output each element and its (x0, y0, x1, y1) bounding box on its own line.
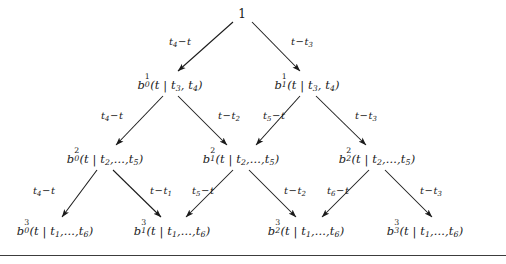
term-b-sub: 2 (301, 190, 305, 198)
term-a-sub: 4 (173, 41, 177, 49)
edge-label-root-left: t4−t (169, 37, 191, 49)
node-args-open: (t | t (150, 78, 176, 92)
node-subscript: 0 (74, 155, 79, 163)
node-args-close: ) (459, 224, 464, 238)
minus-operator: − (272, 110, 281, 121)
term-a-sub: 5 (267, 115, 271, 123)
node-args-open: (t | t (79, 152, 105, 166)
term-b: t (51, 185, 55, 196)
edge-b01-to-b02 (116, 96, 163, 145)
tree-node-b03: b30(t | t1,...,t6) (17, 223, 94, 239)
edge-label-b11-left: t5−t (263, 111, 285, 123)
node-args-mid: , t (318, 78, 330, 92)
node-args-mid: ,...,t (246, 152, 270, 166)
edge-label-b22-right: t−t3 (420, 186, 442, 198)
node-base: b (203, 152, 210, 166)
edge-b02-to-b03 (62, 170, 97, 217)
node-args-open: (t | t (29, 224, 55, 238)
edge-label-b01-right: t−t2 (218, 111, 240, 123)
edge-label-b22-left: t6−t (327, 186, 349, 198)
term-b-sub: 2 (235, 115, 239, 123)
node-subscript: 0 (145, 81, 150, 89)
node-indices: 22 (346, 151, 351, 163)
term-b: t (119, 110, 123, 121)
term-b: t (345, 185, 349, 196)
horizontal-divider (0, 255, 506, 256)
node-indices: 10 (145, 77, 150, 89)
node-args-close: ) (340, 224, 345, 238)
term-b: t (210, 185, 214, 196)
node-base: b (274, 78, 281, 92)
minus-operator: − (42, 185, 51, 196)
minus-operator: − (201, 185, 210, 196)
node-args-mid: ,...,t (177, 224, 201, 238)
term-b-sub: 3 (372, 115, 376, 123)
edge-label-b01-left: t4−t (101, 111, 123, 123)
node-subscript: 3 (394, 227, 399, 235)
node-args-close: ) (206, 224, 211, 238)
minus-operator: − (178, 36, 187, 47)
figure-canvas: 1 b10(t | t3, t4) b11(t | t3, t4) b20(t … (0, 0, 506, 264)
tree-node-root: 1 (238, 8, 246, 20)
node-base: b (387, 224, 394, 238)
node-args-close: ) (335, 78, 340, 92)
node-indices: 11 (282, 77, 287, 89)
node-args-close: ) (89, 224, 94, 238)
node-subscript: 2 (275, 227, 280, 235)
node-indices: 32 (275, 223, 280, 235)
node-args-close: ) (411, 152, 416, 166)
node-base: b (134, 224, 141, 238)
node-args-mid: ,...,t (311, 224, 335, 238)
edge-label-b11-right: t−t3 (355, 111, 377, 123)
node-args-mid: ,...,t (110, 152, 134, 166)
minus-operator: − (110, 110, 119, 121)
node-args-open: (t | t (287, 78, 313, 92)
node-args-mid: , t (181, 78, 193, 92)
term-a-sub: 5 (196, 190, 200, 198)
tree-node-b23: b32(t | t1,...,t6) (268, 223, 345, 239)
node-args-mid: ,...,t (382, 152, 406, 166)
term-b: t (281, 110, 285, 121)
node-base: b (67, 152, 74, 166)
tree-node-b22: b22(t | t2,...,t5) (339, 151, 416, 167)
node-args-open: (t | t (399, 224, 425, 238)
node-subscript: 1 (210, 155, 215, 163)
term-a-sub: 6 (331, 190, 335, 198)
node-indices: 31 (141, 223, 146, 235)
tree-node-b12: b21(t | t2,...,t5) (203, 151, 280, 167)
node-args-open: (t | t (280, 224, 306, 238)
term-a-sub: 4 (37, 190, 41, 198)
edge-label-b02-left: t4−t (33, 186, 55, 198)
node-args-open: (t | t (146, 224, 172, 238)
node-subscript: 0 (24, 227, 29, 235)
edge-label-b02-right: t−t1 (150, 186, 172, 198)
node-base: b (17, 224, 24, 238)
tree-node-b02: b20(t | t2,...,t5) (67, 151, 144, 167)
term-b: t (187, 36, 191, 47)
term-b-sub: 3 (437, 190, 441, 198)
term-b-sub: 3 (308, 41, 312, 49)
node-indices: 30 (24, 223, 29, 235)
edge-label-root-right: t−t3 (291, 37, 313, 49)
tree-node-b01: b10(t | t3, t4) (137, 77, 202, 93)
node-indices: 33 (394, 223, 399, 235)
node-base: b (137, 78, 144, 92)
node-args-mid: ,...,t (430, 224, 454, 238)
node-args-close: ) (275, 152, 280, 166)
node-args-mid: ,...,t (60, 224, 84, 238)
node-indices: 21 (210, 151, 215, 163)
node-args-open: (t | t (215, 152, 241, 166)
minus-operator: − (336, 185, 345, 196)
tree-node-b11: b11(t | t3, t4) (274, 77, 339, 93)
term-b-sub: 1 (167, 190, 171, 198)
tree-node-b13: b31(t | t1,...,t6) (134, 223, 211, 239)
node-args-open: (t | t (351, 152, 377, 166)
term-a-sub: 4 (105, 115, 109, 123)
edge-label-b12-left: t5−t (192, 186, 214, 198)
tree-node-b33: b33(t | t1,...,t6) (387, 223, 464, 239)
node-subscript: 2 (346, 155, 351, 163)
node-label: 1 (238, 7, 246, 21)
node-indices: 20 (74, 151, 79, 163)
edge-label-b12-right: t−t2 (284, 186, 306, 198)
node-args-close: ) (139, 152, 144, 166)
